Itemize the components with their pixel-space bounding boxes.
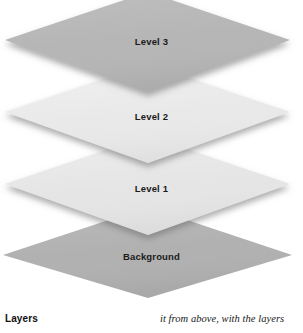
layers-diagram: Level 3 Level 2 Level 1 Background (0, 0, 303, 303)
caption-body-text: it from above, with the layers (160, 314, 284, 325)
caption-row: Layers it from above, with the layers (0, 303, 303, 333)
layers-stack-graphic (0, 0, 303, 303)
caption-heading: Layers (5, 314, 38, 324)
layer-shape-level-3 (5, 0, 290, 92)
level-3-sheen (5, 0, 290, 92)
